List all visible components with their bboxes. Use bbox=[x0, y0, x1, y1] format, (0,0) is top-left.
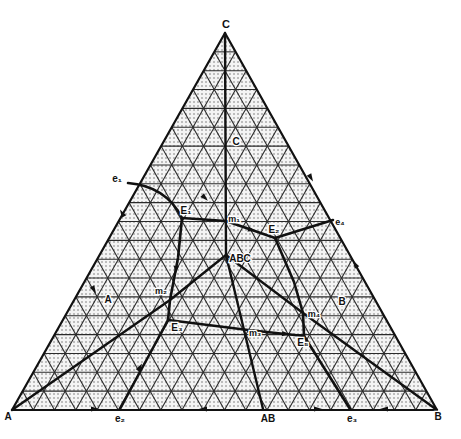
label-e4: e₄ bbox=[335, 217, 344, 227]
label-field-A: A bbox=[104, 294, 111, 305]
line-C-ABC-join bbox=[225, 33, 226, 255]
label-B-vertex: B bbox=[434, 411, 441, 422]
label-field-B: B bbox=[338, 296, 345, 307]
label-m1: m₁ bbox=[228, 214, 240, 224]
label-E5: E₅ bbox=[297, 337, 309, 348]
label-e1: e₁ bbox=[112, 173, 122, 184]
label-C-vertex: C bbox=[222, 18, 230, 30]
label-m2: m₂ bbox=[155, 286, 167, 296]
label-A-vertex: A bbox=[4, 411, 11, 422]
label-e2: e₂ bbox=[115, 413, 125, 424]
ternary-phase-diagram: CABABe₁e₂e₃e₄E₁m₁E₂ABCm₂E₃m₃E₅m₄CAB bbox=[0, 0, 461, 439]
label-field-C: C bbox=[232, 136, 239, 147]
label-E1: E₁ bbox=[181, 205, 192, 216]
label-E2: E₂ bbox=[268, 224, 279, 235]
label-E3: E₃ bbox=[171, 322, 183, 333]
label-AB-compound: AB bbox=[261, 413, 275, 424]
label-ABC: ABC bbox=[229, 253, 251, 264]
label-m3: m₃ bbox=[249, 328, 261, 338]
label-e3: e₃ bbox=[347, 413, 358, 424]
label-m4: m₄ bbox=[308, 309, 320, 319]
